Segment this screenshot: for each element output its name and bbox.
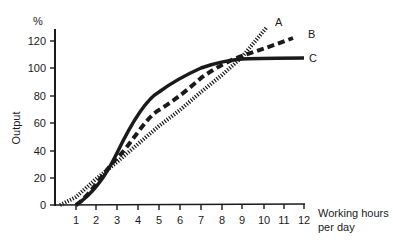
x-axis xyxy=(54,204,305,205)
output-vs-hours-chart: % Output 0 20 40 60 80 100 120 1 2 xyxy=(0,0,393,245)
svg-text:1: 1 xyxy=(73,214,79,226)
svg-text:11: 11 xyxy=(278,214,289,226)
svg-text:120: 120 xyxy=(28,35,46,47)
series-a-line xyxy=(60,27,267,205)
svg-text:100: 100 xyxy=(28,62,46,74)
series-b-line xyxy=(76,38,293,205)
svg-text:80: 80 xyxy=(34,90,46,102)
svg-text:2: 2 xyxy=(93,214,99,226)
y-tick-labels: 0 20 40 60 80 100 120 xyxy=(28,35,46,211)
svg-text:60: 60 xyxy=(34,117,46,129)
series-b-label: B xyxy=(308,28,315,40)
svg-text:8: 8 xyxy=(219,214,225,226)
svg-text:5: 5 xyxy=(156,214,162,226)
x-axis-title-line2: per day xyxy=(318,221,355,233)
y-axis-title: Output xyxy=(10,111,22,144)
svg-text:7: 7 xyxy=(198,214,204,226)
series-a-label: A xyxy=(275,16,283,28)
x-axis-title-line1: Working hours xyxy=(318,207,389,219)
svg-text:10: 10 xyxy=(258,214,270,226)
svg-text:20: 20 xyxy=(34,172,46,184)
svg-text:3: 3 xyxy=(114,214,120,226)
svg-text:12: 12 xyxy=(298,214,310,226)
svg-text:40: 40 xyxy=(34,145,46,157)
x-tick-labels: 1 2 3 4 5 6 7 8 9 10 11 12 xyxy=(73,214,310,226)
svg-text:4: 4 xyxy=(135,214,141,226)
svg-text:6: 6 xyxy=(177,214,183,226)
series-c-label: C xyxy=(309,52,317,64)
svg-text:0: 0 xyxy=(40,199,46,211)
y-unit-label: % xyxy=(33,15,43,27)
svg-text:9: 9 xyxy=(239,214,245,226)
series-c-line xyxy=(76,58,304,205)
